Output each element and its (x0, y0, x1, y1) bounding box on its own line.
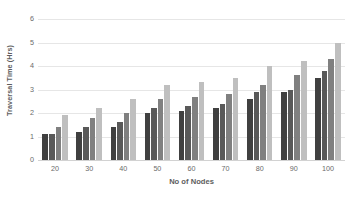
bar-40-series-2[interactable] (117, 122, 123, 160)
y-axis-title-label: Traversal Time (Hrs) (5, 45, 14, 116)
bar-70-series-3[interactable] (226, 94, 232, 160)
bar-80-series-4[interactable] (267, 66, 273, 160)
bar-100-series-2[interactable] (322, 71, 328, 160)
x-axis-tick-40: 40 (106, 162, 140, 175)
y-axis-tick-0: 0 (30, 156, 34, 163)
y-axis-title: Traversal Time (Hrs) (0, 0, 18, 160)
bar-group-90 (277, 19, 311, 160)
bar-70-series-4[interactable] (233, 78, 239, 160)
y-axis-tick-3: 3 (30, 86, 34, 93)
bar-60-series-3[interactable] (192, 97, 198, 160)
bar-group-40 (106, 19, 140, 160)
bar-group-100 (311, 19, 345, 160)
bar-60-series-1[interactable] (179, 111, 185, 160)
bar-group-50 (140, 19, 174, 160)
x-axis-title: No of Nodes (38, 177, 345, 186)
bar-90-series-4[interactable] (301, 61, 307, 160)
bar-group-70 (209, 19, 243, 160)
plot-area (38, 19, 345, 160)
bar-60-series-2[interactable] (185, 106, 191, 160)
bar-100-series-3[interactable] (328, 59, 334, 160)
bar-30-series-2[interactable] (83, 127, 89, 160)
bar-20-series-3[interactable] (56, 127, 62, 160)
bar-50-series-2[interactable] (151, 108, 157, 160)
x-axis-tick-30: 30 (72, 162, 106, 175)
bar-80-series-2[interactable] (254, 92, 260, 160)
bar-20-series-2[interactable] (49, 134, 55, 160)
x-axis-tick-100: 100 (311, 162, 345, 175)
gridline-0 (38, 160, 345, 161)
x-axis-tick-50: 50 (140, 162, 174, 175)
bar-40-series-3[interactable] (124, 113, 130, 160)
y-axis-tick-6: 6 (30, 15, 34, 22)
x-axis-tick-labels: 2030405060708090100 (38, 162, 345, 175)
bar-100-series-4[interactable] (335, 43, 341, 161)
x-axis-tick-70: 70 (209, 162, 243, 175)
y-axis-tick-labels: 0123456 (20, 14, 36, 160)
bar-80-series-1[interactable] (247, 99, 253, 160)
bar-100-series-1[interactable] (315, 78, 321, 160)
bar-group-30 (72, 19, 106, 160)
y-axis-tick-1: 1 (30, 133, 34, 140)
bar-30-series-3[interactable] (90, 118, 96, 160)
bars-layer (38, 19, 345, 160)
bar-90-series-3[interactable] (294, 75, 300, 160)
y-axis-tick-2: 2 (30, 109, 34, 116)
bar-30-series-1[interactable] (76, 132, 82, 160)
bar-20-series-1[interactable] (42, 134, 48, 160)
y-axis-tick-4: 4 (30, 62, 34, 69)
bar-40-series-1[interactable] (111, 127, 117, 160)
x-axis-tick-90: 90 (277, 162, 311, 175)
x-axis-tick-20: 20 (38, 162, 72, 175)
bar-chart: Traversal Time (Hrs) 0123456 20304050607… (0, 0, 353, 202)
x-axis-tick-60: 60 (174, 162, 208, 175)
x-axis-tick-80: 80 (243, 162, 277, 175)
bar-group-80 (243, 19, 277, 160)
bar-group-20 (38, 19, 72, 160)
bar-30-series-4[interactable] (96, 108, 102, 160)
bar-50-series-4[interactable] (164, 85, 170, 160)
bar-70-series-1[interactable] (213, 108, 219, 160)
bar-50-series-1[interactable] (145, 113, 151, 160)
bar-70-series-2[interactable] (220, 104, 226, 160)
bar-40-series-4[interactable] (130, 99, 136, 160)
bar-group-60 (174, 19, 208, 160)
bar-20-series-4[interactable] (62, 115, 68, 160)
bar-90-series-1[interactable] (281, 92, 287, 160)
bar-80-series-3[interactable] (260, 85, 266, 160)
bar-60-series-4[interactable] (199, 82, 205, 160)
bar-90-series-2[interactable] (288, 90, 294, 161)
y-axis-tick-5: 5 (30, 39, 34, 46)
bar-50-series-3[interactable] (158, 99, 164, 160)
